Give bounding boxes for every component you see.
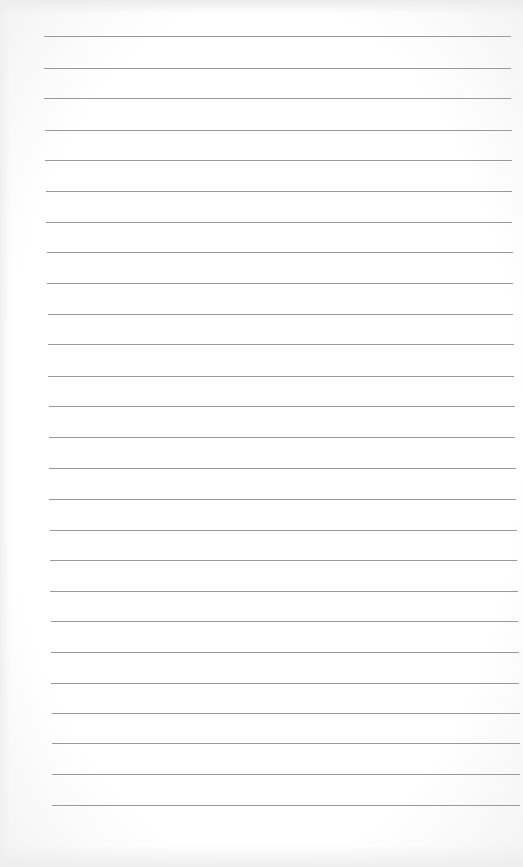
ruled-line [44,36,511,37]
ruled-line [52,774,520,775]
ruled-line [49,499,516,500]
ruled-line [47,283,513,284]
ruled-line [51,621,518,622]
paper-bottom-shadow [0,845,523,867]
ruled-line [50,591,518,592]
ruled-line [50,560,517,561]
ruled-line [51,652,519,653]
ruled-line [44,98,511,99]
ruled-line [49,406,515,407]
ruled-line [51,683,519,684]
ruled-line [45,130,512,131]
ruled-line [49,468,516,469]
ruled-line [49,437,515,438]
lined-paper-sheet [0,0,523,867]
paper-top-shadow [0,0,523,14]
ruled-line [50,530,517,531]
paper-left-shadow [0,0,10,867]
ruled-line [47,252,513,253]
ruled-line [52,713,520,714]
ruled-line [52,743,520,744]
ruled-line [46,222,512,223]
ruled-line [48,344,514,345]
ruled-line [44,68,511,69]
ruled-line [52,805,520,806]
ruled-line [48,376,514,377]
ruled-line [45,160,512,161]
ruled-line [48,314,513,315]
ruled-line [46,191,512,192]
